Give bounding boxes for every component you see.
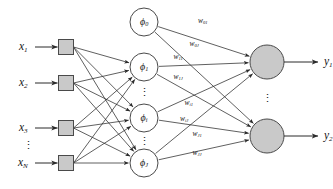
hidden-node-label-4: ϕJ	[140, 158, 148, 169]
edge-input-4-hidden-2	[74, 79, 135, 163]
hidden-ellipsis-1: ⋮	[139, 89, 150, 97]
hidden-node-label-3: ϕi	[141, 113, 148, 124]
edge-input-2-hidden-2	[74, 70, 129, 83]
weight-label-0J: w0J	[190, 40, 199, 49]
hidden-to-output-edges	[155, 27, 253, 160]
network-diagram: x1x2x3xN⋮ϕ0ϕ1ϕiϕJ⋮⋮y1y2⋮w01w0Jw11w1Jwi1w…	[0, 0, 333, 189]
input-arrow-group	[35, 47, 58, 163]
input-ellipsis: ⋮	[23, 142, 34, 150]
weight-label-J1: wJ1	[193, 130, 202, 139]
edge-input-4-hidden-3	[74, 126, 131, 163]
input-node-1[interactable]	[59, 40, 74, 55]
edge-hidden-2-output-2	[157, 74, 251, 127]
weight-label-JJ: wJJ	[193, 149, 202, 158]
hidden-ellipsis-2: ⋮	[139, 138, 150, 146]
input-to-hidden-edges	[74, 47, 136, 163]
network-graphics	[0, 0, 333, 189]
edge-hidden-2-output-1	[159, 63, 249, 67]
output-node-1[interactable]	[250, 45, 284, 79]
weight-label-iJ: wiJ	[180, 115, 188, 124]
edge-hidden-4-output-2	[159, 140, 249, 160]
input-label-4: xN	[18, 157, 28, 170]
edge-hidden-3-output-2	[159, 120, 249, 133]
hidden-node-label-2: ϕ1	[140, 62, 148, 73]
weight-label-11: w11	[174, 53, 183, 62]
edge-hidden-3-output-1	[158, 70, 251, 112]
output-ellipsis-1: ⋮	[262, 95, 273, 103]
output-arrow-group	[284, 62, 318, 136]
input-node-group	[59, 40, 74, 171]
input-label-3: x3	[19, 122, 28, 135]
input-node-4[interactable]	[59, 156, 74, 171]
input-node-2[interactable]	[59, 76, 74, 91]
output-label-2: y2	[324, 130, 333, 143]
output-node-2[interactable]	[250, 119, 284, 153]
edge-hidden-1-output-1	[158, 27, 249, 57]
edge-hidden-4-output-1	[156, 74, 253, 154]
hidden-node-label-1: ϕ0	[140, 17, 148, 28]
weight-label-1J: w1J	[174, 73, 183, 82]
output-label-1: y1	[324, 56, 333, 69]
input-node-3[interactable]	[59, 121, 74, 136]
input-label-2: x2	[19, 77, 28, 90]
weight-label-i1: wi1	[185, 99, 194, 108]
edge-input-3-hidden-2	[74, 77, 133, 128]
edge-hidden-1-output-2	[155, 32, 253, 123]
weight-label-01: w01	[198, 17, 208, 26]
input-label-1: x1	[19, 41, 28, 54]
